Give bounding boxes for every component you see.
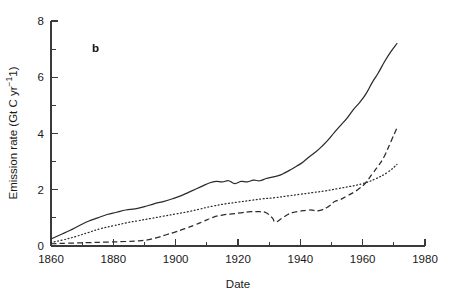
- y-tick-label: 8: [38, 15, 44, 27]
- x-tick-label: 1940: [288, 253, 314, 265]
- emission-rate-line-chart: 02468 1860188019001920194019601980 Date …: [0, 0, 450, 293]
- x-axis-tick-labels: 1860188019001920194019601980: [38, 253, 438, 265]
- panel-label: b: [92, 42, 99, 54]
- x-axis-title: Date: [226, 278, 250, 290]
- y-tick-label: 6: [38, 71, 44, 83]
- y-tick-label: 0: [38, 240, 44, 252]
- y-tick-label: 4: [38, 128, 45, 140]
- x-tick-label: 1900: [163, 253, 189, 265]
- y-axis-ticks: [51, 21, 58, 246]
- series-line-dotted: [51, 164, 397, 242]
- series-line-dashed: [51, 128, 397, 244]
- figure-panel-b: 02468 1860188019001920194019601980 Date …: [0, 0, 450, 293]
- x-tick-label: 1920: [225, 253, 251, 265]
- x-tick-label: 1860: [38, 253, 64, 265]
- y-tick-label: 2: [38, 184, 44, 196]
- x-tick-label: 1980: [412, 253, 438, 265]
- x-tick-label: 1960: [350, 253, 376, 265]
- y-axis-tick-labels: 02468: [38, 15, 45, 252]
- series-line-solid: [51, 44, 397, 239]
- data-series-layer: [51, 44, 397, 244]
- x-tick-label: 1880: [101, 253, 127, 265]
- y-axis-title: Emission rate (Gt C yr−11): [4, 66, 19, 199]
